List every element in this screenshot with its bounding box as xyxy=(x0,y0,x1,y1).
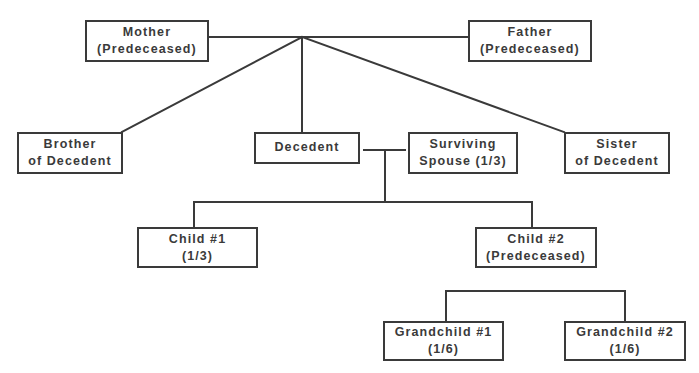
child1-share: (1/3) xyxy=(182,248,213,265)
grandchild2-label: Grandchild #2 xyxy=(576,324,674,341)
brother-relation: of Decedent xyxy=(28,153,112,170)
grandchild1-label: Grandchild #1 xyxy=(395,324,493,341)
child2-status: (Predeceased) xyxy=(486,248,586,265)
father-status: (Predeceased) xyxy=(480,41,580,58)
sister-label: Sister xyxy=(596,136,637,153)
spouse-label: Surviving xyxy=(430,136,497,153)
grandchild1-node: Grandchild #1 (1/6) xyxy=(383,321,504,361)
grandchild2-share: (1/6) xyxy=(609,341,640,358)
mother-label: Mother xyxy=(123,24,171,41)
decedent-label: Decedent xyxy=(274,139,339,156)
child1-node: Child #1 (1/3) xyxy=(137,227,258,268)
brother-label: Brother xyxy=(44,136,97,153)
mother-status: (Predeceased) xyxy=(97,41,197,58)
family-tree-diagram: Mother (Predeceased) Father (Predeceased… xyxy=(0,0,699,373)
father-label: Father xyxy=(508,24,553,41)
child2-node: Child #2 (Predeceased) xyxy=(475,227,597,268)
grandchild2-node: Grandchild #2 (1/6) xyxy=(564,321,686,361)
spouse-node: Surviving Spouse (1/3) xyxy=(408,132,518,174)
spouse-share: Spouse (1/3) xyxy=(419,153,507,170)
father-node: Father (Predeceased) xyxy=(468,20,592,62)
child1-label: Child #1 xyxy=(169,231,226,248)
decedent-node: Decedent xyxy=(254,132,360,164)
sister-node: Sister of Decedent xyxy=(564,132,670,174)
child2-label: Child #2 xyxy=(507,231,564,248)
grandchild1-share: (1/6) xyxy=(428,341,459,358)
sister-relation: of Decedent xyxy=(575,153,659,170)
mother-node: Mother (Predeceased) xyxy=(85,20,209,62)
brother-node: Brother of Decedent xyxy=(17,132,123,174)
